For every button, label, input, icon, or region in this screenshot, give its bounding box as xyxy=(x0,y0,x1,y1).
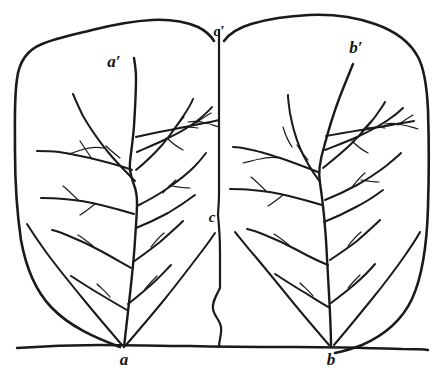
label-c-middle: c xyxy=(209,209,216,225)
label-a-prime: a′ xyxy=(107,52,120,71)
right-twig-16 xyxy=(297,145,308,160)
right-vein-lower-right-1 xyxy=(330,220,380,260)
left-twig-4 xyxy=(180,127,198,128)
left-midrib xyxy=(124,58,137,347)
leaf-venation-diagram: a′ b′ c′ c a b xyxy=(0,0,444,373)
right-vein-mid-right-2 xyxy=(324,190,383,222)
label-c-prime-top: c′ xyxy=(214,23,225,39)
label-b-prime: b′ xyxy=(349,38,362,57)
left-twig-14 xyxy=(145,276,157,289)
left-twig-10 xyxy=(172,186,190,188)
right-vein-upper-left-1 xyxy=(288,95,320,182)
right-twig-8 xyxy=(268,195,283,206)
right-twig-2 xyxy=(243,157,280,163)
right-twig-5 xyxy=(352,141,368,153)
left-basal-vein-outer-right xyxy=(126,233,215,345)
left-twig-7 xyxy=(63,186,78,200)
left-vein-lower-left-1 xyxy=(52,230,131,268)
left-twig-8 xyxy=(80,204,95,215)
left-vein-mid-right-2 xyxy=(136,195,195,228)
right-vein-mid-left-1 xyxy=(230,189,322,205)
right-twig-1 xyxy=(283,127,292,147)
left-twig-13 xyxy=(97,284,110,297)
left-twig-5 xyxy=(167,138,183,150)
right-leaf-blade-outline xyxy=(224,15,429,353)
ground-baseline xyxy=(17,345,428,350)
lower-wavy-divider xyxy=(213,288,221,347)
figure-canvas: a′ b′ c′ c a b xyxy=(0,0,444,373)
right-basal-vein-outer-left xyxy=(235,232,329,345)
center-divider-upper xyxy=(218,30,219,215)
center-divider-lower xyxy=(218,215,220,288)
label-b-base: b xyxy=(327,350,336,369)
right-vein-mid-right-1 xyxy=(325,153,401,200)
right-vein-lower-right-2 xyxy=(331,264,375,303)
label-a-base: a xyxy=(120,350,129,369)
left-vein-mid-left-1 xyxy=(41,198,134,214)
left-vein-upper-left-2 xyxy=(37,151,132,170)
right-twig-7 xyxy=(251,177,266,191)
